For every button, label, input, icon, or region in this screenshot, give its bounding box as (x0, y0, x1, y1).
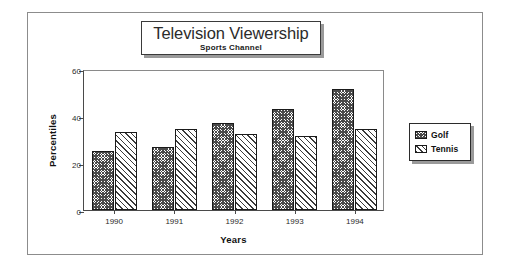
legend-label: Tennis (431, 144, 458, 154)
x-axis-title: Years (83, 234, 384, 245)
legend-label: Golf (431, 130, 448, 140)
legend-item-golf[interactable]: Golf (415, 130, 465, 140)
x-tick-label: 1993 (286, 217, 304, 226)
x-tick-mark (295, 210, 296, 214)
x-tick-label: 1992 (226, 217, 244, 226)
legend-box: GolfTennis (409, 123, 471, 161)
y-tick-label: 0 (77, 208, 81, 217)
diagonal-stripe-swatch (415, 145, 427, 153)
y-axis-title: Percentiles (45, 70, 59, 211)
x-tick-label: 1991 (165, 217, 183, 226)
bar-golf-1992 (212, 123, 234, 210)
y-axis-title-text: Percentiles (47, 114, 58, 167)
x-tick-mark (235, 210, 236, 214)
x-tick-label: 1994 (346, 217, 364, 226)
y-tick-label: 40 (72, 114, 81, 123)
legend-item-tennis[interactable]: Tennis (415, 144, 465, 154)
bar-tennis-1990 (115, 132, 137, 210)
x-tick-label: 1990 (105, 217, 123, 226)
bar-golf-1990 (92, 151, 114, 210)
title-box: Television Viewership Sports Channel (141, 21, 321, 55)
bar-tennis-1993 (295, 136, 317, 210)
bar-golf-1993 (272, 109, 294, 210)
x-tick-mark (355, 210, 356, 214)
chart-figure: Television Viewership Sports Channel Per… (0, 0, 507, 273)
chart-title: Television Viewership (153, 24, 308, 42)
x-tick-mark (174, 210, 175, 214)
bar-golf-1991 (152, 147, 174, 210)
bar-tennis-1991 (175, 129, 197, 210)
bar-tennis-1994 (355, 129, 377, 210)
x-tick-mark (114, 210, 115, 214)
plot-area: 020406019901991199219931994 (83, 70, 384, 211)
bar-golf-1994 (332, 89, 354, 210)
chart-subtitle: Sports Channel (200, 42, 262, 53)
cross-hatch-swatch (415, 131, 427, 139)
y-tick-label: 20 (72, 161, 81, 170)
bar-tennis-1992 (235, 134, 257, 210)
y-tick-label: 60 (72, 67, 81, 76)
